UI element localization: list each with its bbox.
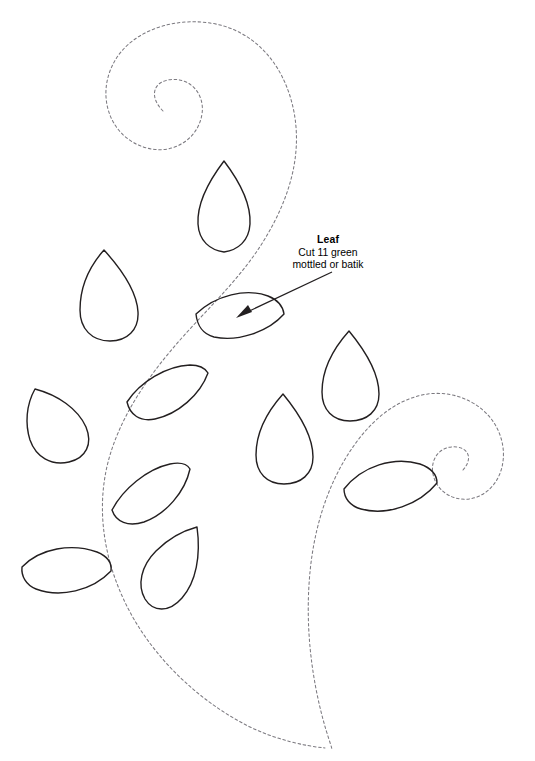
pattern-canvas [0, 0, 535, 761]
leaf-top-center [198, 161, 250, 252]
annotation-title: Leaf [282, 234, 374, 247]
stem-group [102, 22, 503, 749]
upper-left-spiral-stem [102, 22, 325, 748]
lower-right-spiral-stem [308, 393, 503, 749]
annotation-line-1: Cut 11 green [282, 247, 374, 260]
leaf-left-lower-inner [112, 463, 190, 524]
leaf-upper-left [80, 250, 138, 341]
leaf-bottom-left [22, 548, 111, 593]
leaf-right-middle [256, 394, 313, 484]
leaf-far-left [27, 389, 89, 463]
annotation-line-2: mottled or batik [282, 259, 374, 272]
leaf-lower-center [141, 527, 198, 609]
leaf-right-upper [322, 331, 379, 421]
leaf-right-lower [344, 461, 437, 511]
leaf-annotation: Leaf Cut 11 green mottled or batik [282, 234, 374, 272]
leaf-group [22, 161, 437, 609]
leader-arrow-head [236, 305, 252, 318]
